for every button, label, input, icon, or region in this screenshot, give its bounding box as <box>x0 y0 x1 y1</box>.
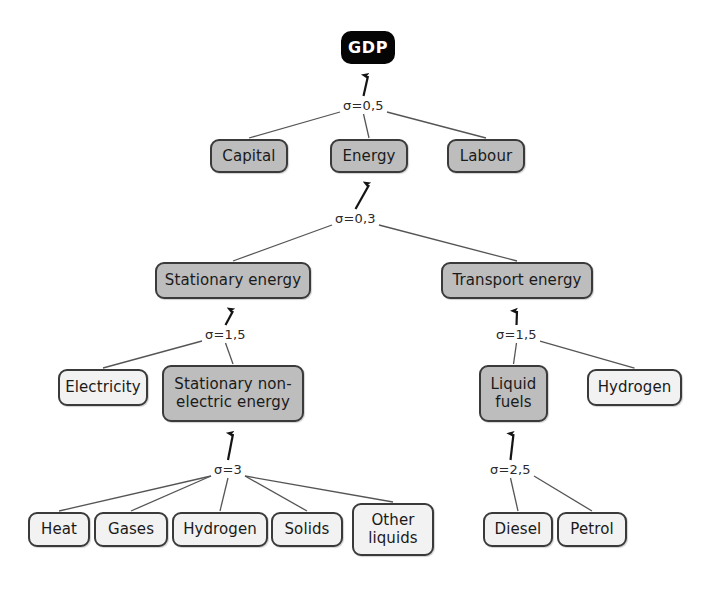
edge-sigma_energy-to-energy <box>356 185 370 209</box>
node-otherliq[interactable]: Other liquids <box>352 503 434 556</box>
node-label: Hydrogen <box>183 521 257 538</box>
node-energy[interactable]: Energy <box>330 139 408 173</box>
node-label: Stationary non-electric energy <box>164 376 302 411</box>
node-label: Stationary energy <box>165 272 301 289</box>
node-gdp[interactable]: GDP <box>341 31 395 64</box>
node-label: Electricity <box>65 379 141 396</box>
edge-hydrogen_t-to-sigma_transport <box>540 341 635 368</box>
node-label: Petrol <box>570 521 613 538</box>
edge-diesel-to-sigma_liquidfuels <box>511 478 519 511</box>
node-solids[interactable]: Solids <box>271 512 343 547</box>
sigma-label-sigma_stationary: σ=1,5 <box>203 327 248 342</box>
node-label: Hydrogen <box>598 379 672 396</box>
node-label: Capital <box>222 148 275 165</box>
edge-gases-to-sigma_statnonelec <box>131 476 211 511</box>
sigma-label-sigma_gdp: σ=0,5 <box>341 98 386 113</box>
edge-heat-to-sigma_statnonelec <box>59 476 211 511</box>
node-label: Gases <box>108 521 154 538</box>
edge-electricity-to-sigma_stationary <box>103 341 202 368</box>
edge-sigma_stationary-to-stationary <box>226 311 234 325</box>
node-label: Liquid fuels <box>481 376 546 411</box>
edge-sigma_gdp-to-gdp <box>364 76 369 96</box>
edge-hydrogen_s-to-sigma_statnonelec <box>220 478 228 511</box>
edge-petrol-to-sigma_liquidfuels <box>534 476 592 511</box>
edge-sigma_liquidfuels-to-liquidfuels <box>511 434 514 460</box>
node-label: GDP <box>348 39 388 57</box>
sigma-label-sigma_liquidfuels: σ=2,5 <box>488 462 533 477</box>
node-petrol[interactable]: Petrol <box>557 512 627 547</box>
node-label: Energy <box>342 148 395 165</box>
node-transport[interactable]: Transport energy <box>441 262 593 299</box>
edge-labour-to-sigma_gdp <box>387 112 486 138</box>
edge-transport-to-sigma_energy <box>379 225 517 261</box>
node-statnonelec[interactable]: Stationary non-electric energy <box>162 365 304 422</box>
edge-capital-to-sigma_gdp <box>249 112 340 138</box>
edge-liquidfuels-to-sigma_transport <box>514 343 517 364</box>
sigma-label-sigma_statnonelec: σ=3 <box>212 462 244 477</box>
sigma-label-sigma_transport: σ=1,5 <box>494 327 539 342</box>
node-label: Transport energy <box>452 272 581 289</box>
node-label: Other liquids <box>354 512 432 547</box>
edge-statnonelec-to-sigma_stationary <box>226 343 234 364</box>
edge-energy-to-sigma_gdp <box>364 114 370 138</box>
edge-stationary-to-sigma_energy <box>233 225 332 261</box>
node-heat[interactable]: Heat <box>28 512 90 547</box>
node-hydrogen_t[interactable]: Hydrogen <box>587 369 682 406</box>
node-label: Heat <box>41 521 77 538</box>
node-label: Diesel <box>495 521 542 538</box>
edge-sigma_transport-to-transport <box>517 311 518 325</box>
node-electricity[interactable]: Electricity <box>58 369 148 406</box>
sigma-label-sigma_energy: σ=0,3 <box>333 211 378 226</box>
node-liquidfuels[interactable]: Liquid fuels <box>479 365 548 422</box>
node-hydrogen_s[interactable]: Hydrogen <box>172 512 268 547</box>
node-stationary[interactable]: Stationary energy <box>155 262 311 299</box>
node-gases[interactable]: Gases <box>94 512 168 547</box>
node-label: Solids <box>285 521 330 538</box>
node-labour[interactable]: Labour <box>447 139 525 173</box>
node-capital[interactable]: Capital <box>210 139 288 173</box>
node-label: Labour <box>460 148 513 165</box>
node-diesel[interactable]: Diesel <box>483 512 553 547</box>
edge-sigma_statnonelec-to-statnonelec <box>228 434 233 460</box>
diagram-canvas: GDPCapitalEnergyLabourStationary energyT… <box>0 0 724 594</box>
